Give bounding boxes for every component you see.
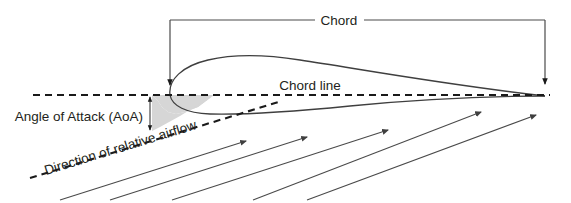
relative-airflow-label: Direction of relative airflow [42,117,198,178]
airfoil-lower-surface [170,95,545,114]
airflow-arrow-group [60,112,536,200]
airflow-arrow [307,115,536,200]
chord-line-label: Chord line [279,78,341,93]
airflow-arrow [253,112,481,200]
airfoil-diagram: Chord Chord line Direction of relative a… [0,0,571,203]
angle-of-attack-label: Angle of Attack (AoA) [15,109,143,124]
diagram-canvas: Chord Chord line Direction of relative a… [0,0,571,203]
chord-label: Chord [321,13,358,28]
airfoil-upper-surface [170,55,545,96]
